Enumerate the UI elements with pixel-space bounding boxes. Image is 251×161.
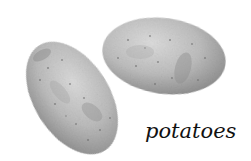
caption-label: potatoes [145,121,236,142]
potatoes-illustration: potatoes [0,0,251,161]
right-potato [97,10,230,103]
